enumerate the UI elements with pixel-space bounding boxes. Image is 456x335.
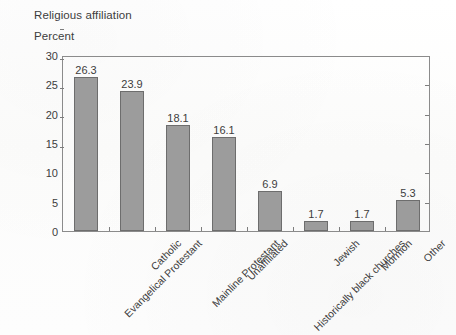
bar	[350, 221, 374, 231]
bar-value-label: 18.1	[167, 112, 188, 124]
bar-value-label: 26.3	[75, 64, 96, 76]
x-axis-tick-mark	[155, 227, 156, 231]
bar-value-label: 5.3	[400, 187, 415, 199]
y-axis-tick-mark-right	[425, 115, 429, 116]
bar	[396, 200, 420, 231]
x-axis-tick-mark	[247, 227, 248, 231]
bar-value-label: 1.7	[354, 208, 369, 220]
y-axis-tick-label: 10	[46, 167, 58, 179]
y-axis-tick-mark	[60, 29, 64, 30]
x-axis-category-label: Other	[421, 237, 448, 264]
bar-value-label: 23.9	[121, 78, 142, 90]
y-axis-tick-mark-right	[425, 144, 429, 145]
y-axis-tick-mark-right	[425, 173, 429, 174]
bar	[166, 125, 190, 231]
x-axis-category-label: Jewish	[330, 237, 361, 268]
bar-value-label: 6.9	[262, 178, 277, 190]
x-axis-tick-mark	[109, 227, 110, 231]
bar	[120, 91, 144, 231]
plot-area: 26.323.918.116.16.91.71.75.3	[62, 56, 430, 232]
y-axis-tick-mark-right	[425, 85, 429, 86]
bar	[258, 191, 282, 231]
y-axis-tick-mark-right	[425, 203, 429, 204]
y-axis-tick-label: 15	[46, 138, 58, 150]
y-axis-tick-label: 25	[46, 79, 58, 91]
x-axis-tick-mark	[293, 227, 294, 231]
y-axis-tick-mark	[60, 59, 64, 60]
y-axis-tick-label: 30	[46, 50, 58, 62]
x-axis-tick-mark	[385, 227, 386, 231]
bar-value-label: 1.7	[308, 208, 323, 220]
x-axis-tick-mark	[201, 227, 202, 231]
y-axis-unit-label: Percent	[34, 30, 74, 42]
bar-value-label: 16.1	[213, 124, 234, 136]
y-axis-tick-mark	[60, 117, 64, 118]
bar	[304, 221, 328, 231]
bar	[74, 77, 98, 231]
y-axis-tick-labels: 051015202530	[30, 56, 58, 232]
y-axis-tick-label: 0	[52, 226, 58, 238]
y-axis-tick-label: 5	[52, 197, 58, 209]
y-axis-tick-mark	[60, 88, 64, 89]
bar	[212, 137, 236, 231]
y-axis-tick-label: 20	[46, 109, 58, 121]
chart-page: Religious affiliation Percent 0510152025…	[0, 0, 456, 335]
x-axis-tick-mark	[339, 227, 340, 231]
chart-title: Religious affiliation	[34, 9, 132, 21]
y-axis-tick-mark	[60, 147, 64, 148]
